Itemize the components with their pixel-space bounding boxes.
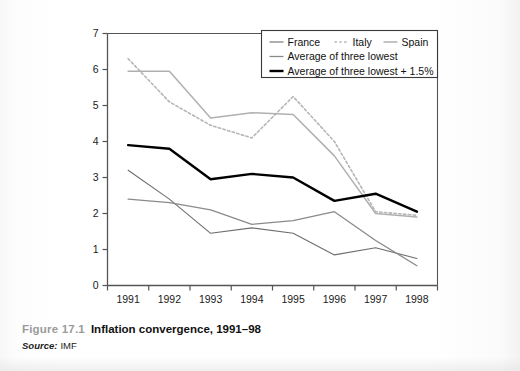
caption-title-line: Figure 17.1Inflation convergence, 1991–9…: [22, 322, 462, 337]
y-tick-label: 5: [93, 99, 99, 111]
figure-number: Figure 17.1: [22, 323, 85, 335]
x-tick-label: 1993: [199, 293, 223, 305]
y-tick-label: 7: [93, 27, 99, 39]
y-tick-label: 4: [93, 135, 99, 147]
x-tick-label: 1996: [323, 293, 347, 305]
x-tick-label: 1992: [158, 293, 182, 305]
figure-caption: Figure 17.1Inflation convergence, 1991–9…: [22, 322, 462, 352]
chart-legend: FranceItalySpainAverage of three lowestA…: [262, 31, 438, 78]
x-tick-label: 1995: [281, 293, 305, 305]
x-tick-label: 1991: [116, 293, 140, 305]
legend-label-spain: Spain: [402, 36, 429, 48]
y-tick-label: 0: [93, 279, 99, 291]
y-tick-label: 2: [93, 207, 99, 219]
x-tick-label: 1994: [240, 293, 264, 305]
source-value: IMF: [60, 340, 76, 351]
figure-title: Inflation convergence, 1991–98: [91, 323, 261, 335]
y-axis-ticks: 01234567: [93, 27, 108, 291]
y-tick-label: 1: [93, 243, 99, 255]
source-label: Source:: [22, 340, 57, 351]
legend-label-italy: Italy: [353, 36, 373, 48]
legend-label-france: France: [288, 36, 321, 48]
x-tick-label: 1998: [405, 293, 429, 305]
figure-inflation-convergence: 01234567 1991199219931994199519961997199…: [0, 0, 520, 371]
x-tick-label: 1997: [364, 293, 388, 305]
y-tick-label: 6: [93, 63, 99, 75]
y-tick-label: 3: [93, 171, 99, 183]
legend-label-average-of-three-lowest: Average of three lowest: [288, 50, 398, 62]
x-axis-ticks: 19911992199319941995199619971998: [108, 286, 438, 306]
legend-label-average-of-three-lowest-1-5: Average of three lowest + 1.5%: [288, 65, 434, 77]
chart-canvas: 01234567 1991199219931994199519961997199…: [0, 0, 520, 371]
caption-source-line: Source:IMF: [22, 339, 462, 352]
